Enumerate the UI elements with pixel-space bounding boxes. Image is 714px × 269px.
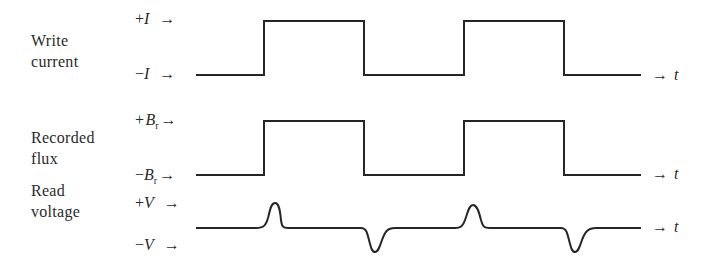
read-voltage-waveform — [196, 203, 641, 252]
recorded-flux-waveform — [196, 121, 641, 175]
write-current-waveform — [196, 21, 641, 75]
waveform-canvas — [0, 0, 714, 269]
